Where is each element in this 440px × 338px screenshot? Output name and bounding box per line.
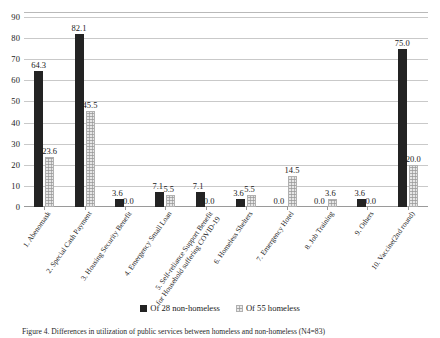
y-axis-tick-label: 40 xyxy=(11,118,20,127)
bar-chart-plot-area: 010203040506070809064.323.682.145.53.60.… xyxy=(24,17,428,207)
bar xyxy=(236,199,245,207)
chart-legend: Of 28 non-homeless Of 55 homeless xyxy=(0,303,440,313)
y-axis-tick-label: 80 xyxy=(11,34,20,43)
bar-value-label: 0.0 xyxy=(314,197,325,206)
bar-value-label: 0.0 xyxy=(204,197,215,206)
bar-group: 3.60.0 xyxy=(357,17,377,207)
figure-container: 010203040506070809064.323.682.145.53.60.… xyxy=(0,0,440,338)
x-axis-category-line: 9. Others xyxy=(353,209,376,236)
x-axis-category-label: 8. Job Training xyxy=(303,210,336,251)
legend-label-homeless: Of 55 homeless xyxy=(246,303,300,313)
x-axis-category-label: 9. Others xyxy=(354,210,377,237)
bar-value-label: 7.1 xyxy=(193,182,204,191)
figure-caption: Figure 4. Differences in utilization of … xyxy=(22,327,430,336)
y-axis-tick-label: 30 xyxy=(11,139,20,148)
x-axis-category-label: 7. Emergency Hotel xyxy=(255,210,296,263)
y-axis-tick-label: 50 xyxy=(11,97,20,106)
bar-value-label: 45.5 xyxy=(83,101,98,110)
bar-group: 82.145.5 xyxy=(75,17,95,207)
plot-top-rule xyxy=(24,12,428,13)
y-axis-tick-label: 70 xyxy=(11,55,20,64)
bar xyxy=(247,195,256,207)
bar-value-label: 14.5 xyxy=(285,166,300,175)
bar-value-label: 7.1 xyxy=(152,182,163,191)
x-axis-category-line: 7. Emergency Hotel xyxy=(254,209,295,263)
bar xyxy=(166,195,175,207)
bar-value-label: 23.6 xyxy=(42,147,57,156)
bar-value-label: 75.0 xyxy=(395,39,410,48)
y-axis-tick-label: 60 xyxy=(11,76,20,85)
x-axis-category-line: 8. Job Training xyxy=(303,209,336,251)
legend-item-homeless: Of 55 homeless xyxy=(236,303,300,313)
bar xyxy=(86,111,95,207)
bar-value-label: 3.6 xyxy=(233,189,244,198)
bar-value-label: 3.6 xyxy=(112,189,123,198)
bar-group: 7.10.0 xyxy=(196,17,216,207)
bar xyxy=(155,192,164,207)
bar xyxy=(328,199,337,207)
x-axis-category-label: 10. Vaccine(2nd round) xyxy=(370,210,417,272)
y-axis-tick-label: 10 xyxy=(11,182,20,191)
bar-value-label: 5.5 xyxy=(163,185,174,194)
bar-group: 0.014.5 xyxy=(277,17,297,207)
bar-value-label: 64.3 xyxy=(31,61,46,70)
bar-value-label: 0.0 xyxy=(123,197,134,206)
bar-value-label: 0.0 xyxy=(365,197,376,206)
bar-value-label: 20.0 xyxy=(406,155,421,164)
bar-value-label: 0.0 xyxy=(274,197,285,206)
bar xyxy=(288,176,297,207)
bar-value-label: 82.1 xyxy=(72,24,87,33)
bar-value-label: 3.6 xyxy=(354,189,365,198)
bar-value-label: 3.6 xyxy=(325,189,336,198)
legend-swatch-non-homeless xyxy=(140,305,147,312)
x-axis-category-line: 1. Abenomask xyxy=(21,209,53,249)
legend-label-non-homeless: Of 28 non-homeless xyxy=(150,303,220,313)
bar-group: 3.65.5 xyxy=(236,17,256,207)
x-axis-category-label: 1. Abenomask xyxy=(22,210,53,250)
x-axis-category-labels: 1. Abenomask2. Special Cash Payment3. Ho… xyxy=(24,210,428,282)
x-axis-category-line: 10. Vaccine(2nd round) xyxy=(369,209,416,271)
bar xyxy=(34,71,43,207)
bar-group: 0.03.6 xyxy=(317,17,337,207)
bar-group: 75.020.0 xyxy=(398,17,418,207)
bar-group: 7.15.5 xyxy=(155,17,175,207)
bar xyxy=(398,49,407,207)
legend-swatch-homeless xyxy=(236,305,243,312)
bar xyxy=(45,157,54,207)
bar xyxy=(409,165,418,207)
bar-value-label: 5.5 xyxy=(244,185,255,194)
y-axis-tick-label: 20 xyxy=(11,160,20,169)
y-axis-tick-label: 0 xyxy=(16,203,20,212)
bar-group: 3.60.0 xyxy=(115,17,135,207)
bar xyxy=(75,34,84,207)
legend-item-non-homeless: Of 28 non-homeless xyxy=(140,303,220,313)
y-axis-tick-label: 90 xyxy=(11,13,20,22)
bar-group: 64.323.6 xyxy=(34,17,54,207)
